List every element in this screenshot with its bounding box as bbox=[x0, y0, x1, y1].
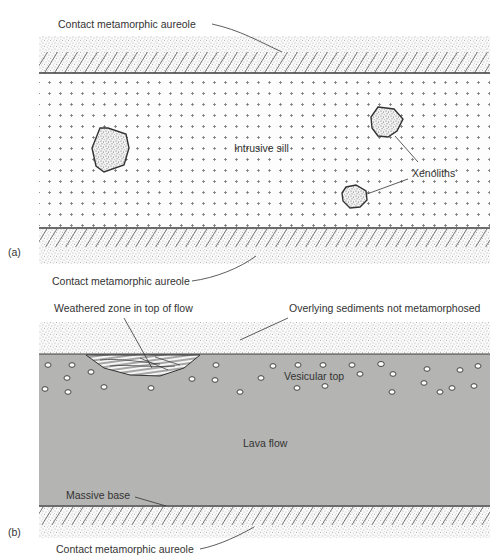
panel-b-bottom-aureole bbox=[39, 506, 490, 538]
label-vesicular-top: Vesicular top bbox=[284, 371, 344, 382]
panel-b-overlying-sediments bbox=[39, 322, 490, 353]
panel-b-tag: (b) bbox=[8, 527, 21, 538]
panel-a-bottom-aureole bbox=[39, 228, 490, 264]
label-massive-base: Massive base bbox=[66, 490, 130, 501]
label-xenoliths: Xenoliths bbox=[412, 168, 455, 179]
label-intrusive-sill: Intrusive sill bbox=[234, 143, 289, 154]
label-overlying-sediments: Overlying sediments not metamorphosed bbox=[289, 303, 480, 314]
xenolith-large bbox=[92, 128, 129, 172]
label-lava-flow: Lava flow bbox=[243, 438, 287, 449]
label-weathered-zone: Weathered zone in top of flow bbox=[54, 303, 193, 314]
panel-a-tag: (a) bbox=[8, 247, 21, 258]
label-bottom-aureole-a: Contact metamorphic aureole bbox=[52, 276, 190, 287]
panel-b-lava-flow bbox=[39, 354, 490, 505]
panel-a-top-aureole bbox=[39, 36, 490, 73]
label-bottom-aureole-b: Contact metamorphic aureole bbox=[56, 544, 194, 555]
label-top-aureole-a: Contact metamorphic aureole bbox=[58, 19, 196, 30]
